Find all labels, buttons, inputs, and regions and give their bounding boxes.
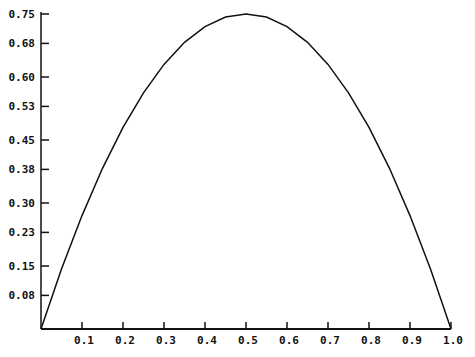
line-chart: 0.080.150.230.300.380.450.530.600.680.75… [0,0,475,357]
x-tick-label: 0.2 [115,334,135,347]
y-tick-label: 0.38 [9,163,36,176]
x-tick-label: 0.6 [279,334,299,347]
x-tick-label: 0.7 [320,334,340,347]
y-tick-label: 0.75 [9,8,36,21]
axes [41,12,451,329]
y-tick-label: 0.08 [9,289,36,302]
y-tick-label: 0.15 [9,260,36,273]
y-tick-label: 0.30 [9,197,36,210]
x-tick-label: 0.5 [238,334,258,347]
y-tick-label: 0.60 [9,71,36,84]
x-tick-label: 0.3 [156,334,176,347]
x-tick-label: 0.9 [402,334,422,347]
y-tick-label: 0.53 [9,100,36,113]
x-tick-label: 0.4 [197,334,217,347]
y-tick-label: 0.68 [9,37,36,50]
x-ticks: 0.10.20.30.40.50.60.70.80.91.0 [74,322,463,347]
x-tick-label: 1.0 [443,334,463,347]
x-tick-label: 0.1 [74,334,94,347]
y-ticks: 0.080.150.230.300.380.450.530.600.680.75 [9,8,50,302]
y-tick-label: 0.23 [9,226,36,239]
data-line [41,14,451,329]
x-tick-label: 0.8 [361,334,381,347]
y-tick-label: 0.45 [9,134,36,147]
